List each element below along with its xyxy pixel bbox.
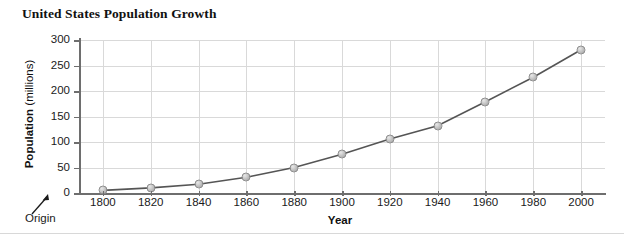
data-point-marker xyxy=(577,45,586,54)
y-axis-tick-label: 150 xyxy=(36,110,70,122)
gridline-vertical xyxy=(199,40,200,193)
gridline-vertical xyxy=(342,40,343,193)
y-axis-tick xyxy=(74,142,79,144)
x-axis-tick-label: 1820 xyxy=(138,196,164,208)
x-axis-tick xyxy=(485,191,487,196)
y-axis-tick xyxy=(74,117,79,119)
x-axis-tick-label: 1860 xyxy=(234,196,260,208)
y-axis-tick xyxy=(74,193,79,195)
x-axis-tick xyxy=(581,191,583,196)
x-axis-tick-label: 1800 xyxy=(90,196,116,208)
x-axis-tick-label: 1920 xyxy=(377,196,403,208)
x-axis-tick xyxy=(246,191,248,196)
data-point-marker xyxy=(338,150,347,159)
x-axis-tick-label: 2000 xyxy=(568,196,594,208)
y-axis-tick xyxy=(74,168,79,170)
gridline-vertical xyxy=(246,40,247,193)
y-axis-tick-label: 100 xyxy=(36,135,70,147)
y-axis-tick-label: 300 xyxy=(36,33,70,45)
y-axis-tick xyxy=(74,91,79,93)
plot-area xyxy=(79,40,605,193)
data-point-marker xyxy=(194,180,203,189)
y-axis-title-bold: Population xyxy=(23,109,35,168)
x-axis-tick xyxy=(342,191,344,196)
gridline-vertical xyxy=(390,40,391,193)
y-axis-tick-label: 250 xyxy=(36,59,70,71)
gridline-vertical xyxy=(151,40,152,193)
data-point-marker xyxy=(385,134,394,143)
x-axis-tick xyxy=(199,191,201,196)
chart-container: United States Population Growth 05010015… xyxy=(0,0,624,233)
gridline-vertical xyxy=(533,40,534,193)
x-axis-title: Year xyxy=(328,214,352,226)
y-axis-line xyxy=(79,38,81,195)
x-axis-tick-label: 1900 xyxy=(329,196,355,208)
x-axis-tick-label: 1840 xyxy=(186,196,212,208)
y-axis-title-regular: (millions) xyxy=(23,60,35,106)
data-point-marker xyxy=(242,173,251,182)
y-axis-title: Population (millions) xyxy=(23,39,35,189)
y-axis-tick-label: 200 xyxy=(36,84,70,96)
gridline-vertical xyxy=(581,40,582,193)
data-point-marker xyxy=(529,73,538,82)
x-axis-tick-label: 1980 xyxy=(520,196,546,208)
x-axis-tick xyxy=(533,191,535,196)
x-axis-tick-label: 1880 xyxy=(281,196,307,208)
x-axis-tick xyxy=(151,191,153,196)
origin-label: Origin xyxy=(25,212,56,224)
data-point-marker xyxy=(290,163,299,172)
x-axis-tick xyxy=(390,191,392,196)
x-axis-tick-label: 1940 xyxy=(425,196,451,208)
gridline-vertical xyxy=(438,40,439,193)
data-point-marker xyxy=(481,97,490,106)
y-axis-title-units xyxy=(23,106,35,109)
data-point-marker xyxy=(433,121,442,130)
gridline-vertical xyxy=(485,40,486,193)
x-axis-tick xyxy=(438,191,440,196)
x-axis-tick xyxy=(294,191,296,196)
gridline-vertical xyxy=(103,40,104,193)
y-axis-tick xyxy=(74,66,79,68)
y-axis-tick-label: 50 xyxy=(36,161,70,173)
x-axis-tick xyxy=(103,191,105,196)
x-axis-tick-label: 1960 xyxy=(473,196,499,208)
y-axis-tick xyxy=(74,40,79,42)
